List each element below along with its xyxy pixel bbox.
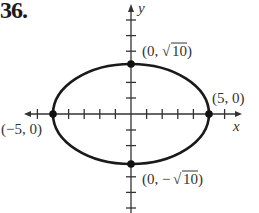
bottom-vertex-point	[127, 160, 135, 168]
svg-text:10: 10	[172, 43, 187, 59]
svg-text:(0,: (0,	[142, 43, 158, 60]
bottom-vertex-label: (0, − √ 10 )	[142, 171, 203, 188]
x-axis-right-arrow-icon	[235, 111, 242, 117]
svg-text:10: 10	[183, 171, 198, 187]
y-axis-arrow-icon	[128, 4, 134, 12]
left-vertex-point	[49, 110, 57, 118]
x-axis-left-arrow-icon	[24, 111, 31, 117]
y-axis-label: y	[136, 0, 145, 16]
ellipse-graph: x y (0, √ 10 ) (5, 0) (−5, 0) (0, − √ 10…	[0, 0, 259, 213]
y-axis	[126, 4, 136, 213]
x-axis-label: x	[232, 118, 240, 134]
svg-text:√: √	[173, 171, 182, 187]
top-vertex-point	[127, 60, 135, 68]
svg-text:(0, −: (0, −	[142, 171, 170, 188]
top-vertex-label: (0, √ 10 )	[142, 43, 192, 60]
left-vertex-label: (−5, 0)	[1, 121, 42, 138]
right-vertex-label: (5, 0)	[212, 90, 245, 107]
svg-text:): )	[187, 43, 192, 60]
svg-text:): )	[198, 171, 203, 188]
svg-text:√: √	[162, 43, 171, 59]
right-vertex-point	[205, 110, 213, 118]
